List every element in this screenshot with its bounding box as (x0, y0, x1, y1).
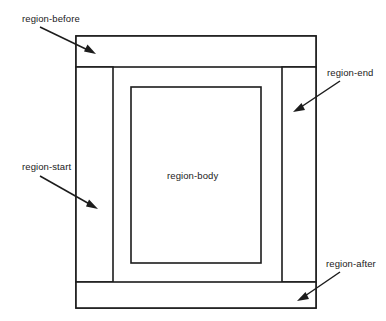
region-body-label: region-body (167, 170, 218, 181)
callout-label-region-start: region-start (22, 161, 71, 172)
callout-label-region-after: region-after (326, 258, 376, 269)
region-before-box (76, 36, 316, 67)
region-start-box (76, 67, 113, 282)
region-end-box (282, 67, 316, 282)
region-after-box (76, 282, 316, 308)
callout-label-region-end: region-end (327, 67, 373, 78)
callout-label-region-before: region-before (22, 13, 80, 24)
region-diagram: region-before region-end region-start re… (0, 0, 386, 321)
